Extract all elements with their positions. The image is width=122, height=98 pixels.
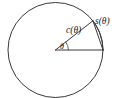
geometry-figure: s(θ) c(θ) θ [0, 0, 122, 98]
angle-arc-theta [66, 42, 69, 50]
arc-length-label: s(θ) [95, 17, 110, 27]
chord-length-label: c(θ) [66, 26, 81, 36]
angle-theta-label: θ [60, 43, 64, 51]
